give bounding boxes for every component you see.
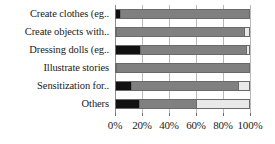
x-axis-tick-label: 80% [213, 118, 233, 132]
x-axis-tick [142, 113, 143, 116]
category-label: Dressing dolls (eg.. [0, 41, 112, 59]
bar-segment [120, 10, 249, 18]
bar-segment [116, 100, 139, 108]
bar-segment [238, 82, 249, 90]
stacked-bar[interactable] [115, 81, 250, 91]
bar-segment [116, 64, 249, 72]
bar-segment [116, 82, 131, 90]
stacked-bar[interactable] [115, 63, 250, 73]
category-label: Illustrate stories [0, 59, 112, 77]
x-axis [115, 113, 250, 115]
x-axis-tick-label: 60% [186, 118, 206, 132]
x-axis-tick [223, 113, 224, 116]
x-axis-tick-label: 100% [238, 118, 263, 132]
bar-segment [244, 28, 249, 36]
bar-slot [115, 95, 250, 113]
x-axis-tick [115, 113, 116, 116]
x-axis-tick-label: 0% [108, 118, 122, 132]
category-label: Sensitization for.. [0, 77, 112, 95]
stacked-bar[interactable] [115, 9, 250, 19]
bar-segment [116, 28, 244, 36]
bar-segment [246, 46, 249, 54]
bar-slot [115, 59, 250, 77]
stacked-bar-chart: Create clothes (eg.. Create objects with… [0, 0, 275, 144]
stacked-bar[interactable] [115, 27, 250, 37]
bar-segment [140, 46, 246, 54]
x-axis-tick-label: 20% [132, 118, 152, 132]
category-axis-labels: Create clothes (eg.. Create objects with… [0, 5, 112, 113]
bar-slot [115, 5, 250, 23]
bar-slot [115, 77, 250, 95]
gridline [250, 5, 251, 113]
bar-segment [139, 100, 196, 108]
bar-segment [196, 100, 249, 108]
category-label: Others [0, 95, 112, 113]
bar-slot [115, 41, 250, 59]
x-axis-tick [196, 113, 197, 116]
category-label: Create clothes (eg.. [0, 5, 112, 23]
bar-segment [116, 46, 140, 54]
plot-area [115, 5, 250, 113]
bar-group [115, 5, 250, 113]
x-axis-tick-labels: 0%20%40%60%80%100% [0, 118, 275, 134]
bar-slot [115, 23, 250, 41]
bar-segment [131, 82, 239, 90]
x-axis-tick [169, 113, 170, 116]
x-axis-tick [250, 113, 251, 116]
stacked-bar[interactable] [115, 99, 250, 109]
category-label: Create objects with.. [0, 23, 112, 41]
x-axis-tick-label: 40% [159, 118, 179, 132]
stacked-bar[interactable] [115, 45, 250, 55]
